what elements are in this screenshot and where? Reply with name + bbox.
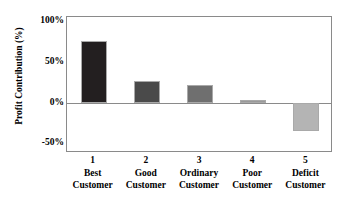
x-category-label-line2: Customer — [172, 179, 225, 192]
bar-2 — [134, 81, 160, 103]
x-category-number: 2 — [119, 154, 172, 167]
bar-4 — [240, 100, 266, 103]
bar-1 — [81, 41, 107, 103]
x-category-label-line1: Poor — [226, 167, 279, 180]
x-category-1: 1BestCustomer — [66, 154, 119, 204]
y-axis-tick-0: 100% — [28, 15, 64, 25]
x-category-label-line2: Customer — [279, 179, 332, 192]
x-category-number: 5 — [279, 154, 332, 167]
plot-area — [66, 16, 332, 152]
bars-layer — [67, 17, 331, 151]
x-axis-category-labels: 1BestCustomer2GoodCustomer3OrdinaryCusto… — [66, 154, 332, 204]
y-axis-tick-labels: 100%50%0%-50% — [26, 0, 64, 207]
x-category-label-line1: Ordinary — [172, 167, 225, 180]
y-axis-tick-2: 0% — [28, 97, 64, 107]
x-category-3: 3OrdinaryCustomer — [172, 154, 225, 204]
x-category-label-line1: Deficit — [279, 167, 332, 180]
x-category-2: 2GoodCustomer — [119, 154, 172, 204]
y-axis-tick-3: -50% — [28, 137, 64, 147]
y-axis-title-text: Profit Contribution (%) — [14, 27, 24, 124]
x-category-label-line2: Customer — [226, 179, 279, 192]
x-category-number: 4 — [226, 154, 279, 167]
bar-chart: Profit Contribution (%) 100%50%0%-50% 1B… — [0, 0, 347, 207]
y-axis-tick-1: 50% — [28, 56, 64, 66]
x-category-5: 5DeficitCustomer — [279, 154, 332, 204]
x-category-number: 3 — [172, 154, 225, 167]
x-category-label-line1: Best — [66, 167, 119, 180]
x-category-label-line1: Good — [119, 167, 172, 180]
bar-5 — [293, 103, 319, 132]
x-category-label-line2: Customer — [119, 179, 172, 192]
x-category-label-line2: Customer — [66, 179, 119, 192]
bar-3 — [187, 85, 213, 102]
x-category-number: 1 — [66, 154, 119, 167]
x-category-4: 4PoorCustomer — [226, 154, 279, 204]
